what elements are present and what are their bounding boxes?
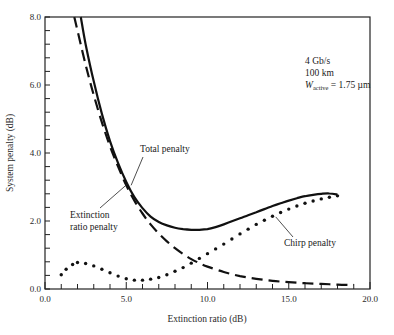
- y-tick-label: 8.0: [30, 12, 42, 22]
- total-penalty-curve: [81, 17, 338, 230]
- x-tick-label: 10.0: [200, 294, 216, 304]
- chirp-penalty-point: [311, 199, 314, 202]
- param-w-subscript: active: [313, 84, 329, 91]
- y-tick-label: 2.0: [30, 216, 42, 226]
- chirp-penalty-point: [303, 202, 306, 205]
- y-tick-label: 4.0: [30, 148, 42, 158]
- chirp-penalty-point: [198, 257, 201, 260]
- chirp-penalty-point: [279, 211, 282, 214]
- chirp-penalty-point: [133, 278, 136, 281]
- chirp-penalty-point: [64, 268, 67, 271]
- total-penalty-leader: [131, 157, 143, 185]
- parameters-box: 4 Gb/s 100 km Wactive = 1.75 µm: [305, 56, 371, 91]
- chirp-penalty-point: [181, 266, 184, 269]
- param-distance: 100 km: [305, 68, 334, 78]
- chirp-penalty-point: [71, 263, 74, 266]
- total-penalty-label: Total penalty: [140, 144, 190, 154]
- y-tick-label: 0.0: [30, 284, 42, 294]
- chirp-penalty-point: [287, 207, 290, 210]
- chirp-penalty-point: [157, 276, 160, 279]
- chirp-penalty-point: [222, 242, 225, 245]
- x-axis-title: Extinction ratio (dB): [167, 314, 246, 325]
- chirp-penalty-point: [320, 197, 323, 200]
- chirp-penalty-point: [76, 261, 79, 264]
- chirp-penalty-point: [328, 196, 331, 199]
- x-tick-label: 0.0: [39, 294, 51, 304]
- chirp-penalty-label: Chirp penalty: [284, 238, 336, 248]
- chirp-penalty-point: [84, 262, 87, 265]
- chirp-penalty-point: [116, 274, 119, 277]
- x-tick-label: 5.0: [121, 294, 133, 304]
- param-width: Wactive = 1.75 µm: [305, 80, 371, 91]
- chirp-penalty-point: [336, 194, 339, 197]
- chirp-penalty-point: [165, 273, 168, 276]
- chirp-penalty-point: [149, 277, 152, 280]
- chirp-penalty-point: [173, 270, 176, 273]
- y-axis-title: System penalty (dB): [5, 114, 16, 192]
- chirp-penalty-point: [263, 219, 266, 222]
- x-tick-label: 20.0: [362, 294, 378, 304]
- chirp-penalty-point: [108, 271, 111, 274]
- extinction-penalty-leader: [100, 184, 128, 208]
- annotations: Total penalty Extinction ratio penalty C…: [70, 144, 336, 248]
- chirp-penalty-point: [60, 273, 63, 276]
- chirp-penalty-point: [100, 268, 103, 271]
- param-rate: 4 Gb/s: [305, 56, 330, 66]
- chirp-penalty-leader: [276, 217, 293, 237]
- x-tick-label: 15.0: [281, 294, 297, 304]
- penalty-chart: 0.05.010.015.020.00.02.04.06.08.0 System…: [0, 0, 394, 335]
- chirp-penalty-point: [206, 252, 209, 255]
- chirp-penalty-point: [190, 261, 193, 264]
- extinction-penalty-label-line2: ratio penalty: [70, 222, 118, 232]
- chirp-penalty-point: [230, 237, 233, 240]
- chirp-penalty-point: [271, 215, 274, 218]
- chirp-penalty-point: [295, 204, 298, 207]
- chirp-penalty-point: [125, 277, 128, 280]
- chirp-penalty-point: [246, 227, 249, 230]
- extinction-penalty-label-line1: Extinction: [70, 210, 110, 220]
- chirp-penalty-point: [238, 232, 241, 235]
- chirp-penalty-point: [141, 278, 144, 281]
- chirp-penalty-point: [214, 247, 217, 250]
- chirp-penalty-point: [92, 264, 95, 267]
- y-tick-label: 6.0: [30, 80, 42, 90]
- param-w-value: = 1.75 µm: [328, 80, 371, 90]
- chirp-penalty-point: [255, 223, 258, 226]
